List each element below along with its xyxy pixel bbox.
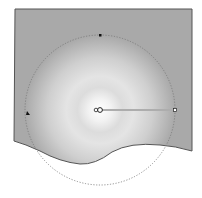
gradient-filled-shape[interactable] — [14, 9, 192, 164]
gradient-end-handle[interactable] — [174, 109, 177, 112]
drawing-canvas[interactable] — [0, 0, 202, 198]
gradient-top-handle[interactable] — [99, 34, 102, 37]
gradient-center-handle[interactable] — [98, 108, 103, 113]
